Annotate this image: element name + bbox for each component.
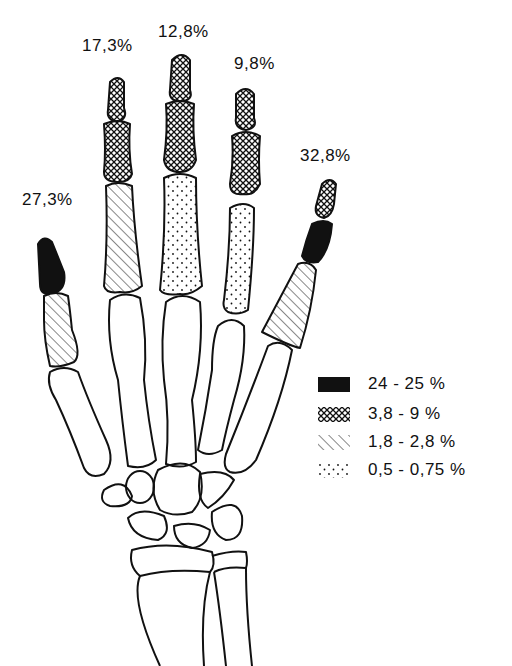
triquetrum-bone [212, 505, 242, 540]
legend-label: 3,8 - 9 % [368, 404, 441, 424]
little-finger-percentage: 32,8% [300, 146, 351, 166]
scaphoid-bone [128, 511, 167, 540]
hand-skeleton-drawing [0, 0, 512, 666]
legend-item-hatch: 1,8 - 2,8 % [318, 432, 508, 454]
ulna-head [212, 552, 247, 573]
middle-distal-phalanx [170, 55, 191, 102]
solid-black-swatch-icon [318, 377, 350, 392]
thumb-percentage: 27,3% [22, 190, 73, 210]
index-proximal-phalanx [104, 183, 142, 292]
lunate-bone [174, 524, 210, 548]
legend-item-crosshatch: 3,8 - 9 % [318, 404, 508, 426]
middle-proximal-phalanx [160, 174, 202, 295]
capitate-bone [153, 463, 201, 514]
thumb-metacarpal [49, 368, 111, 476]
index-distal-phalanx [108, 78, 125, 122]
pisiform-bone [126, 471, 154, 503]
legend-label: 1,8 - 2,8 % [368, 432, 456, 452]
little-middle-phalanx [302, 221, 332, 262]
middle-metacarpal [162, 296, 201, 467]
crosshatch-swatch-icon [318, 407, 350, 422]
legend-item-solid: 24 - 25 % [318, 374, 508, 396]
thumb-distal-phalanx [38, 238, 65, 294]
radius-shaft [138, 572, 211, 666]
legend-label: 0,5 - 0,75 % [368, 460, 466, 480]
ring-proximal-phalanx [224, 204, 255, 314]
index-finger-percentage: 17,3% [82, 36, 133, 56]
ulna-shaft [214, 568, 252, 666]
thumb-proximal-phalanx [44, 293, 78, 367]
dotted-swatch-icon [318, 463, 350, 478]
middle-middle-phalanx [164, 101, 196, 172]
hamate-bone [199, 472, 234, 508]
ring-finger-percentage: 9,8% [234, 54, 275, 74]
middle-finger-percentage: 12,8% [158, 22, 209, 42]
little-distal-phalanx [316, 180, 336, 218]
legend-item-dotted: 0,5 - 0,75 % [318, 460, 508, 482]
hand-diagram: 17,3% 12,8% 9,8% 32,8% 27,3% 24 - 25 % 3… [0, 0, 512, 666]
little-proximal-phalanx [262, 263, 316, 348]
ring-middle-phalanx [230, 132, 260, 194]
index-middle-phalanx [104, 121, 132, 182]
index-metacarpal [109, 294, 156, 467]
little-metacarpal [225, 343, 292, 473]
ring-distal-phalanx [236, 89, 255, 130]
radius-bone [131, 545, 214, 576]
legend-label: 24 - 25 % [368, 374, 445, 394]
diagonal-hatch-swatch-icon [318, 435, 350, 450]
ring-metacarpal [198, 320, 244, 454]
